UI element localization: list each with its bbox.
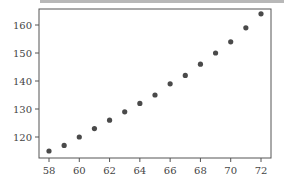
data-point: [183, 73, 188, 78]
y-axis: 120130140150160: [13, 20, 39, 143]
x-tick-label: 62: [103, 165, 116, 176]
data-point: [168, 81, 173, 86]
x-tick-label: 72: [255, 165, 268, 176]
x-tick-label: 58: [43, 165, 56, 176]
data-point: [243, 25, 248, 30]
x-tick-label: 64: [133, 165, 146, 176]
data-point: [122, 109, 127, 114]
plot-frame: [39, 9, 271, 158]
data-point: [107, 118, 112, 123]
data-point: [213, 50, 218, 55]
data-point: [228, 39, 233, 44]
data-point: [137, 101, 142, 106]
scatter-chart: 120130140150160 5860626466687072: [0, 0, 284, 183]
x-tick-label: 68: [194, 165, 207, 176]
data-point: [77, 134, 82, 139]
data-points: [46, 11, 263, 153]
data-point: [258, 11, 263, 16]
y-tick-label: 130: [13, 104, 32, 115]
x-tick-label: 60: [73, 165, 86, 176]
y-tick-label: 120: [13, 132, 32, 143]
data-point: [92, 126, 97, 131]
data-point: [62, 143, 67, 148]
data-point: [198, 62, 203, 67]
y-tick-label: 160: [13, 20, 32, 31]
data-point: [152, 92, 157, 97]
y-tick-label: 150: [13, 48, 32, 59]
x-axis: 5860626466687072: [43, 158, 268, 176]
x-tick-label: 66: [164, 165, 177, 176]
x-tick-label: 70: [224, 165, 237, 176]
data-point: [46, 148, 51, 153]
y-tick-label: 140: [13, 76, 32, 87]
